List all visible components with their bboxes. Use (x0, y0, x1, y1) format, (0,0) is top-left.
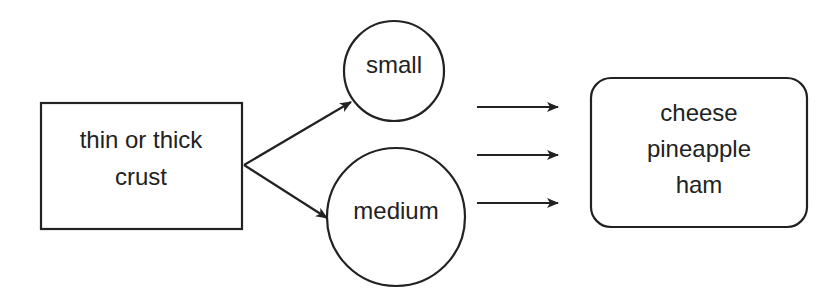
arrow-crust-to-small (244, 102, 351, 165)
crust-node: thin or thick crust (41, 103, 242, 229)
toppings-label-line-1: cheese (660, 99, 737, 126)
medium-label: medium (353, 197, 438, 224)
small-node: small (344, 21, 444, 121)
pizza-options-diagram: thin or thick crust small medium cheese … (0, 0, 833, 308)
medium-node: medium (327, 148, 465, 286)
toppings-label-line-2: pineapple (647, 135, 751, 162)
crust-label-line-2: crust (115, 163, 167, 190)
crust-label-line-1: thin or thick (80, 126, 204, 153)
toppings-node: cheese pineapple ham (591, 78, 807, 227)
toppings-label-line-3: ham (676, 171, 723, 198)
arrow-crust-to-medium (244, 165, 327, 218)
small-label: small (366, 51, 422, 78)
